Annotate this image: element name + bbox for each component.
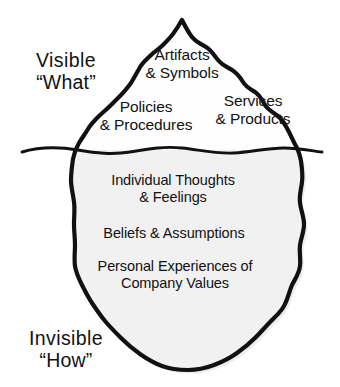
label-invisible-line2: “How” xyxy=(10,350,122,372)
label-visible-line1: Visible xyxy=(36,49,96,71)
label-visible-what: Visible “What” xyxy=(14,50,118,94)
label-services-and-products: Services & Products xyxy=(200,92,306,127)
label-visible-line2: “What” xyxy=(14,72,118,94)
iceberg-diagram: Visible “What” Invisible “How” Artifacts… xyxy=(0,0,340,387)
label-individual-thoughts-and-feelings: Individual Thoughts & Feelings xyxy=(98,172,248,205)
label-invisible-how: Invisible “How” xyxy=(10,328,122,372)
label-personal-experiences-of-company-values: Personal Experiences of Company Values xyxy=(84,258,266,291)
label-invisible-line1: Invisible xyxy=(29,327,103,349)
label-beliefs-and-assumptions: Beliefs & Assumptions xyxy=(86,225,262,242)
label-artifacts-and-symbols: Artifacts & Symbols xyxy=(124,46,240,81)
label-policies-and-procedures: Policies & Procedures xyxy=(84,98,208,133)
